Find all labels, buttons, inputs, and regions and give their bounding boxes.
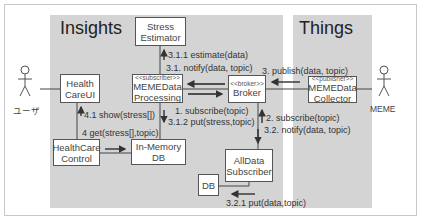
broker-stereotype: <<broker>>	[230, 80, 264, 87]
meme-data-collector-line2: Collector	[314, 93, 352, 104]
db-box: DB	[198, 174, 219, 196]
user-actor-icon	[18, 66, 32, 96]
user-actor-label: ユーザ	[13, 104, 40, 116]
message-3-1: 3.1. notify(data, topic)	[166, 63, 253, 73]
alldata-subscriber-line2: Subscriber	[226, 166, 271, 177]
stress-estimator-line1: Stress	[147, 21, 174, 32]
message-4: 4 get(stress[],topic)	[82, 128, 159, 138]
message-3-2: 3.2. notify(data, topic)	[264, 125, 351, 135]
meme-data-collector-box: <<publisher>> MEMEData Collector	[308, 76, 357, 103]
meme-data-processing-box: <<subscriber>> MEMEData Processing	[132, 74, 183, 103]
healthcare-ui-line1: Health	[66, 78, 93, 89]
message-2: 2. subscribe(topic)	[266, 113, 340, 123]
meme-actor-label: MEME	[370, 104, 396, 114]
stress-estimator-box: Stress Estimator	[135, 17, 186, 46]
message-4-1: 4.1 show(stress[])	[84, 110, 155, 120]
alldata-subscriber-box: AllData Subscriber	[225, 149, 273, 182]
healthcare-control-box: HealthCare Control	[53, 139, 100, 166]
meme-actor-icon	[377, 66, 391, 96]
subscriber-stereotype: <<subscriber>>	[135, 74, 180, 81]
meme-data-collector-line1: MEMEData	[308, 82, 357, 93]
healthcare-ui-line2: CareUI	[65, 89, 95, 100]
in-memory-db-line2: DB	[152, 152, 165, 163]
message-1: 1. subscribe(topic)	[175, 106, 249, 116]
healthcare-control-line1: HealthCare	[52, 142, 100, 153]
healthcare-ui-box: Health CareUI	[60, 74, 100, 103]
publisher-stereotype: <<publisher>>	[312, 75, 354, 82]
in-memory-db-box: In-Memory DB	[131, 139, 186, 165]
meme-data-processing-line1: MEMEData	[133, 81, 182, 92]
message-3-1-1: 3.1.1 estimate(data)	[168, 50, 248, 60]
in-memory-db-line1: In-Memory	[136, 141, 181, 152]
message-3: 3. publish(data, topic)	[262, 66, 348, 76]
broker-line1: Broker	[233, 87, 261, 98]
meme-data-processing-line2: Processing	[134, 92, 181, 103]
healthcare-control-line2: Control	[61, 153, 92, 164]
stress-estimator-line2: Estimator	[140, 32, 180, 43]
message-3-2-1: 3.2.1 put(data,topic)	[226, 198, 306, 208]
broker-box: <<broker>> Broker	[228, 75, 266, 103]
alldata-subscriber-line1: AllData	[234, 155, 265, 166]
db-line1: DB	[202, 180, 215, 191]
message-3-1-2: 3.1.2 put(stress,topic)	[168, 117, 255, 127]
